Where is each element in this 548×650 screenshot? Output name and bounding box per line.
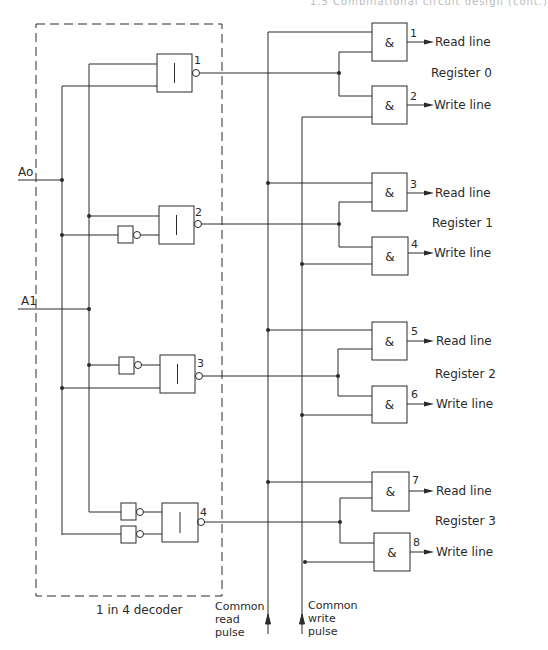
input-label-a1: A1: [21, 294, 37, 308]
register-label-1: Register 1: [432, 216, 493, 230]
and-gate-3-symbol: &: [385, 186, 394, 200]
and-gate-number-6: 6: [411, 388, 418, 401]
svg-text:Common: Common: [215, 600, 265, 613]
register-label-0: Register 0: [431, 66, 492, 80]
output-arrow-icons: [424, 40, 434, 555]
read-line-label-2: Read line: [436, 334, 492, 348]
and-gate-8-symbol: &: [387, 546, 396, 560]
decoder-gate-number-2: 2: [195, 206, 202, 219]
and-gate-2-symbol: &: [385, 99, 394, 113]
input-label-a0: Ao: [18, 165, 33, 179]
read-line-label-0: Read line: [435, 35, 491, 49]
decoder-gate-number-4: 4: [200, 506, 207, 519]
write-line-label-2: Write line: [436, 397, 493, 411]
and-gate-number-7: 7: [412, 474, 419, 487]
decoder-caption: 1 in 4 decoder: [96, 603, 183, 617]
decoder-gate-number-1: 1: [194, 54, 201, 67]
svg-text:pulse: pulse: [215, 626, 245, 639]
svg-text:read: read: [215, 613, 240, 626]
register-label-3: Register 3: [435, 514, 496, 528]
read-pulse-arrow-icon: [266, 614, 271, 624]
write-line-label-0: Write line: [434, 98, 491, 112]
and-gate-6-symbol: &: [385, 398, 394, 412]
and-gate-5-symbol: &: [385, 335, 394, 349]
read-line-label-1: Read line: [435, 186, 491, 200]
common-write-pulse-label: Common write pulse: [308, 599, 358, 638]
svg-text:pulse: pulse: [308, 625, 338, 638]
and-gate-1-symbol: &: [385, 36, 394, 50]
and-gate-number-4: 4: [411, 238, 418, 251]
and-gate-4-symbol: &: [385, 250, 394, 264]
read-line-label-3: Read line: [436, 484, 492, 498]
register-2-gates: [268, 322, 426, 423]
svg-text:write: write: [308, 612, 336, 625]
and-gate-number-2: 2: [410, 90, 417, 103]
decoder-boundary: [36, 24, 222, 596]
and-gate-number-1: 1: [410, 27, 417, 40]
write-pulse-arrow-icon: [300, 614, 305, 624]
decoder-gate-number-3: 3: [197, 357, 204, 370]
and-gate-number-8: 8: [413, 536, 420, 549]
junction-dots: [60, 71, 342, 564]
common-read-pulse-label: Common read pulse: [215, 600, 265, 639]
and-gate-7-symbol: &: [386, 485, 395, 499]
write-line-label-1: Write line: [434, 246, 491, 260]
write-line-label-3: Write line: [436, 545, 493, 559]
and-gate-number-5: 5: [411, 325, 418, 338]
svg-text:Common: Common: [308, 599, 358, 612]
register-label-2: Register 2: [435, 367, 496, 381]
and-gate-number-3: 3: [410, 178, 417, 191]
